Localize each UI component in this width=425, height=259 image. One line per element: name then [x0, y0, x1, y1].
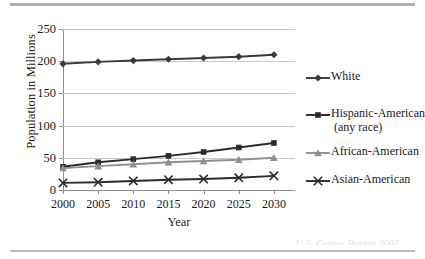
y-tick-label: 250: [37, 22, 56, 37]
y-tick-label: 150: [37, 86, 56, 101]
series-3: [59, 172, 278, 187]
x-legend-icon: [305, 174, 331, 188]
plot-area: 050100150200250 200020052010201520202025…: [63, 29, 295, 190]
diamond-marker: [314, 74, 321, 81]
x-tick-mark: [239, 190, 240, 194]
series-group: [63, 29, 295, 190]
x-axis-title: Year: [63, 215, 295, 230]
triangle-legend-icon: [305, 146, 331, 160]
figure-page: Population in Millions 050100150200250 2…: [0, 0, 425, 259]
series-0: [59, 51, 277, 67]
x-tick-label: 2005: [86, 197, 110, 212]
legend-label: African-American: [331, 145, 419, 159]
y-tick-label: 0: [50, 183, 56, 198]
chart-legend: WhiteHispanic-American(any race)African-…: [305, 29, 425, 199]
y-tick-label: 200: [37, 54, 56, 69]
x-tick-label: 2025: [227, 197, 251, 212]
population-projection-chart: Population in Millions 050100150200250 2…: [0, 12, 425, 242]
y-tick-label: 100: [37, 118, 56, 133]
source-note: U.S. Census Bureau 2007: [296, 238, 399, 245]
diamond-marker: [235, 53, 242, 60]
square-legend-icon: [305, 108, 331, 122]
x-tick-mark: [63, 190, 64, 194]
x-tick-label: 2030: [262, 197, 286, 212]
legend-label: Asian-American: [331, 173, 410, 187]
x-tick-mark: [133, 190, 134, 194]
bottom-divider-rule: [10, 250, 415, 252]
top-divider-rule: [10, 3, 415, 6]
x-tick-mark: [204, 190, 205, 194]
legend-item-square[interactable]: Hispanic-American(any race): [305, 107, 425, 134]
x-tick-mark: [168, 190, 169, 194]
x-tick-label: 2010: [121, 197, 145, 212]
diamond-marker: [95, 58, 102, 65]
legend-item-diamond[interactable]: White: [305, 70, 360, 85]
legend-label-line2: (any race): [331, 121, 425, 135]
diamond-marker: [165, 56, 172, 63]
square-marker: [271, 140, 277, 146]
x-tick-mark: [274, 190, 275, 194]
y-axis-title: Population in Millions: [24, 17, 39, 167]
legend-label: White: [331, 70, 360, 84]
x-tick-label: 2000: [51, 197, 75, 212]
square-marker: [166, 153, 172, 159]
diamond-legend-icon: [305, 71, 331, 85]
square-marker: [315, 112, 321, 118]
x-tick-mark: [98, 190, 99, 194]
diamond-marker: [130, 57, 137, 64]
legend-item-triangle[interactable]: African-American: [305, 145, 419, 160]
x-tick-label: 2015: [156, 197, 180, 212]
square-marker: [201, 149, 207, 155]
legend-label: Hispanic-American(any race): [331, 107, 425, 134]
x-tick-label: 2020: [192, 197, 216, 212]
diamond-marker: [200, 54, 207, 61]
legend-item-x[interactable]: Asian-American: [305, 173, 410, 188]
diamond-marker: [270, 51, 277, 58]
y-tick-label: 50: [44, 150, 57, 165]
square-marker: [236, 145, 242, 151]
